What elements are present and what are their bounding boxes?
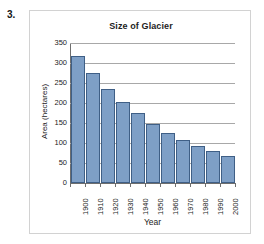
x-tick-label: 1960 xyxy=(171,185,180,215)
x-tick-label: 1900 xyxy=(81,185,90,215)
x-axis-tick-labels: 1900191019201930194019501960197019801990… xyxy=(70,187,235,217)
worksheet-page: 3. Size of Glacier Area (hectares) 35030… xyxy=(0,0,264,244)
y-tick-label: 200 xyxy=(41,99,67,107)
plot-area xyxy=(70,43,235,183)
x-axis-title: Year xyxy=(70,217,235,227)
bar xyxy=(71,56,85,183)
x-tick-label: 1970 xyxy=(186,185,195,215)
bar xyxy=(176,140,190,183)
y-tick-label: 50 xyxy=(41,159,67,167)
bar xyxy=(116,102,130,183)
bar xyxy=(161,133,175,183)
y-tick-label: 150 xyxy=(41,119,67,127)
gridline xyxy=(70,43,235,44)
y-tick-label: 100 xyxy=(41,139,67,147)
gridline xyxy=(70,63,235,64)
bar xyxy=(191,146,205,183)
y-axis-tick-labels: 350300250200150100500 xyxy=(38,43,67,183)
y-tick-label: 250 xyxy=(41,79,67,87)
question-number: 3. xyxy=(7,9,15,20)
y-tick-label: 300 xyxy=(41,59,67,67)
x-tick-label: 1950 xyxy=(156,185,165,215)
x-tick-label: 1940 xyxy=(141,185,150,215)
bar xyxy=(146,124,160,183)
bar xyxy=(206,151,220,183)
x-tick-label: 1920 xyxy=(111,185,120,215)
bar xyxy=(221,156,235,183)
x-tick-label: 2000 xyxy=(231,185,240,215)
x-tick-label: 1910 xyxy=(96,185,105,215)
bar xyxy=(131,113,145,183)
bar xyxy=(101,89,115,183)
x-tick-label: 1980 xyxy=(201,185,210,215)
y-tick-label: 350 xyxy=(41,39,67,47)
chart-title: Size of Glacier xyxy=(30,21,252,31)
chart-container: Size of Glacier Area (hectares) 35030025… xyxy=(29,10,251,234)
x-tick-label: 1930 xyxy=(126,185,135,215)
y-tick-label: 0 xyxy=(41,179,67,187)
x-tick-label: 1990 xyxy=(216,185,225,215)
bar xyxy=(86,73,100,183)
